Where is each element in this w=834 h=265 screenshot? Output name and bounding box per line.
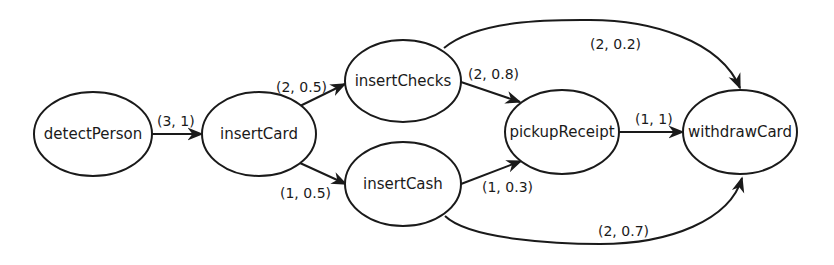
edge-label: (1, 0.3) [482, 179, 533, 195]
edge-label: (1, 0.5) [280, 185, 331, 201]
edge-detectPerson-insertCard: (3, 1) [152, 113, 202, 134]
node-insertCard: insertCard [202, 92, 316, 176]
node-label: insertCard [220, 125, 298, 143]
edge-label: (3, 1) [157, 113, 195, 129]
node-insertChecks: insertChecks [345, 40, 461, 122]
edge-label: (2, 0.2) [590, 36, 641, 52]
edge-insertChecks-pickupReceipt: (2, 0.8) [461, 66, 520, 102]
edge-label: (1, 1) [635, 111, 673, 127]
edge-insertCash-pickupReceipt: (1, 0.3) [461, 161, 533, 195]
node-label: insertCash [363, 175, 443, 193]
node-label: detectPerson [44, 125, 142, 143]
node-label: pickupReceipt [509, 123, 614, 141]
node-pickupReceipt: pickupReceipt [505, 90, 619, 174]
node-insertCash: insertCash [345, 142, 461, 226]
node-detectPerson: detectPerson [34, 92, 152, 176]
node-withdrawCard: withdrawCard [683, 90, 797, 174]
edge-pickupReceipt-withdrawCard: (1, 1) [619, 111, 683, 132]
state-diagram: (3, 1) (2, 0.5) (1, 0.5) (2, 0.8) (2, 0.… [0, 0, 834, 265]
edge-label: (2, 0.7) [598, 223, 649, 239]
edge-label: (2, 0.8) [468, 66, 519, 82]
edge-label: (2, 0.5) [276, 79, 327, 95]
node-label: withdrawCard [688, 123, 792, 141]
node-label: insertChecks [355, 72, 452, 90]
